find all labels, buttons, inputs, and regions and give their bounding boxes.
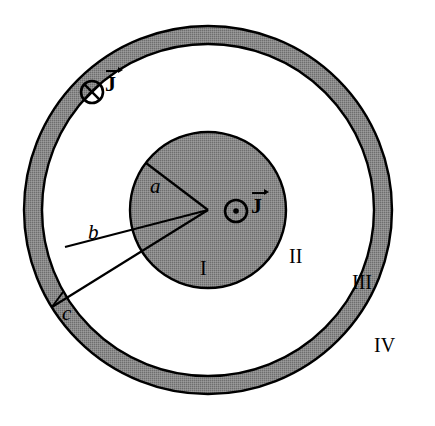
current-symbol-core: J (251, 195, 262, 217)
current-symbol-shell: J (105, 73, 116, 95)
region-label-iv: IV (374, 335, 395, 355)
vector-arrow-head-core (264, 189, 269, 195)
region-label-iii: III (352, 272, 372, 292)
coaxial-cable-diagram (0, 0, 435, 426)
region-label-i: I (200, 258, 207, 278)
region-label-ii: II (289, 246, 302, 266)
figure-canvas: a b c I II III IV J J (0, 0, 435, 426)
radius-label-a: a (150, 176, 161, 197)
radius-label-c: c (62, 303, 71, 324)
radius-label-b: b (88, 222, 99, 243)
vector-arrow-head-shell (118, 67, 123, 73)
